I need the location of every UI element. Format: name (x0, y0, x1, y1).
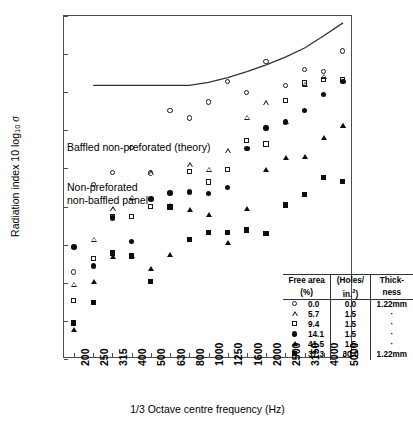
annotation-theory-text: Baffled non-preforated (theory) (67, 141, 210, 153)
marker-triangle-open-icon (292, 311, 298, 316)
data-point-circle-filled (283, 119, 288, 124)
legend-free-area-value: 37.3 (307, 350, 331, 360)
data-point-triangle-open (148, 170, 154, 175)
legend-marker-glyph (292, 350, 299, 357)
data-point-circle-filled (167, 190, 172, 195)
data-point-square-open (187, 169, 192, 174)
data-point-triangle-filled (340, 123, 346, 128)
data-point-square-filled (71, 320, 76, 325)
legend-row: 5.71.5· (283, 310, 413, 320)
data-point-square-filled (340, 179, 345, 184)
data-point-triangle-open (206, 167, 212, 172)
legend-col2-unit-pre: in. (343, 289, 353, 298)
legend-marker-triangle-filled (283, 340, 307, 350)
data-point-square-open (71, 298, 76, 303)
data-point-circle-filled (110, 215, 115, 220)
data-point-triangle-filled (283, 155, 289, 160)
legend-holes-value: 1.5 (331, 310, 370, 320)
data-point-triangle-filled (167, 252, 173, 257)
y-axis-title-subscript: 10 (13, 125, 22, 133)
marker-triangle-filled-icon (292, 341, 298, 346)
legend-marker-glyph (292, 330, 299, 337)
data-point-square-open (225, 167, 230, 172)
legend-col3-title-line1: Thick- (370, 275, 413, 286)
data-point-circle-filled (148, 196, 153, 201)
data-point-square-open (302, 80, 307, 85)
legend-holes-value: 1.5 (331, 340, 370, 350)
data-point-triangle-filled (91, 279, 97, 284)
legend: Free area (Holes/ Thick- (%) in.2) ness … (283, 274, 413, 360)
data-point-circle-filled (263, 125, 268, 130)
y-axis-title: Radiation index 10 log10 σ (9, 12, 22, 342)
legend-free-area-value: 9.4 (307, 320, 331, 330)
data-point-square-filled (225, 230, 230, 235)
legend-thickness-value: · (370, 340, 413, 350)
legend-free-area-value: 41.5 (307, 340, 331, 350)
annotation-panel-line2: non-baffled panel (67, 194, 148, 207)
legend-header-row-2: (%) in.2) ness (283, 286, 413, 300)
data-point-square-filled (283, 202, 288, 207)
legend-col2-title-line1: (Holes/ (331, 275, 370, 286)
data-point-circle-filled (91, 263, 96, 268)
data-point-square-open (129, 214, 134, 219)
theory-curve-path (93, 23, 343, 86)
legend-marker-triangle-open (283, 310, 307, 320)
data-point-triangle-open (91, 237, 97, 242)
annotation-panel: Non-preforated non-baffled panel (67, 181, 148, 207)
legend-free-area-value: 14.1 (307, 330, 331, 340)
data-point-circle-open (206, 99, 211, 104)
legend-marker-square-filled (283, 350, 307, 360)
data-point-triangle-open (263, 100, 269, 105)
data-point-circle-open (283, 83, 288, 88)
legend-row: 37.330.01.22mm (283, 350, 413, 360)
legend-holes-value: 0.0 (331, 299, 370, 310)
data-point-square-filled (206, 230, 211, 235)
plot-area: -10-15-20-25-30-35-40-45-50-55 200250315… (63, 15, 352, 358)
data-point-circle-filled (244, 146, 249, 151)
marker-circle-filled-icon (292, 331, 297, 336)
data-point-triangle-filled (187, 207, 193, 212)
data-point-triangle-filled (321, 135, 327, 140)
data-point-triangle-filled (71, 327, 77, 332)
marker-circle-open-icon (292, 301, 297, 306)
data-point-circle-filled (71, 244, 76, 249)
data-point-circle-filled (187, 189, 192, 194)
legend-thickness-value: 1.22mm (370, 350, 413, 360)
legend-body: 0.00.01.22mm5.71.5·9.41.5·14.11.5·41.51.… (283, 299, 413, 360)
data-point-square-open (206, 179, 211, 184)
legend-thickness-value: 1.22mm (370, 299, 413, 310)
legend-holes-value: 1.5 (331, 330, 370, 340)
data-point-triangle-open (225, 148, 231, 153)
data-point-triangle-filled (302, 154, 308, 159)
legend-free-area-value: 0.0 (307, 299, 331, 310)
x-axis-title: 1/3 Octave centre frequency (Hz) (63, 403, 352, 415)
legend-col1-title-line1: Free area (283, 275, 331, 286)
legend-thickness-value: · (370, 330, 413, 340)
legend-header-row-1: Free area (Holes/ Thick- (283, 275, 413, 286)
data-point-square-open (321, 77, 326, 82)
data-point-triangle-open (71, 282, 77, 287)
data-point-square-filled (91, 300, 96, 305)
legend-thickness-value: · (370, 310, 413, 320)
data-point-square-open (283, 98, 288, 103)
data-point-square-open (91, 256, 96, 261)
data-point-square-filled (263, 231, 268, 236)
legend-marker-square-open (283, 320, 307, 330)
legend-marker-glyph (292, 310, 299, 317)
annotation-theory: Baffled non-preforated (theory) (67, 141, 210, 154)
marker-square-open-icon (292, 321, 297, 326)
data-point-square-filled (148, 279, 153, 284)
legend-col3-title-line2: ness (370, 286, 413, 300)
data-point-square-filled (302, 192, 307, 197)
legend-holes-value: 1.5 (331, 320, 370, 330)
data-point-square-filled (129, 253, 134, 258)
legend-holes-value: 30.0 (331, 350, 370, 360)
data-point-triangle-filled (225, 240, 231, 245)
legend-marker-circle-open (283, 299, 307, 310)
legend-row: 0.00.01.22mm (283, 299, 413, 310)
data-point-square-open (263, 141, 268, 146)
data-point-circle-open (110, 170, 115, 175)
data-point-square-open (148, 204, 153, 209)
legend-marker-glyph (292, 300, 299, 307)
